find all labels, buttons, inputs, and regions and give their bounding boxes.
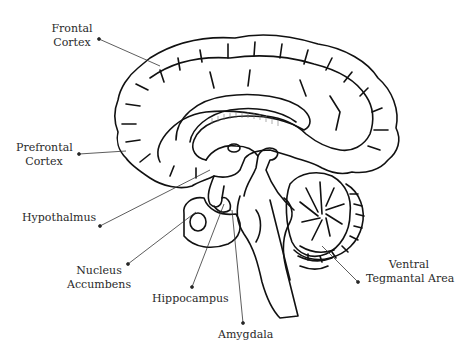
leader-prefrontal-cortex [79,151,126,154]
label-nucleus-accumbens: Nucleus Accumbens [66,264,132,292]
label-amygdala: Amygdala [218,328,282,342]
label-nucleus-accumbens-line1: Nucleus [66,264,132,278]
leader-frontal-cortex [99,39,160,66]
brain-diagram: Frontal Cortex Prefrontal Cortex Hypotha… [0,0,475,361]
label-hippocampus: Hippocampus [152,292,224,306]
leader-amygdala [232,210,243,323]
leader-vta [322,246,358,282]
brainstem [237,196,298,318]
label-amygdala-line1: Amygdala [218,328,282,342]
label-prefrontal-cortex-line1: Prefrontal [16,141,72,155]
label-hypothalamus: Hypothalmus [22,211,94,225]
label-vta-line2: Tegmantal Area [366,272,452,286]
brain-illustration [0,0,475,361]
cerebellum [286,173,350,257]
amygdala-shape [190,213,206,231]
label-nucleus-accumbens-line2: Accumbens [66,278,132,292]
label-frontal-cortex: Frontal Cortex [48,22,96,50]
label-hippocampus-line1: Hippocampus [152,292,224,306]
label-prefrontal-cortex-line2: Cortex [16,155,72,169]
label-frontal-cortex-line1: Frontal [48,22,96,36]
label-vta-line1: Ventral [366,258,452,272]
label-ventral-tegmental-area: Ventral Tegmantal Area [366,258,452,286]
corpus-callosum [176,95,310,160]
label-hypothalamus-line1: Hypothalmus [22,211,94,225]
label-frontal-cortex-line2: Cortex [48,36,96,50]
hypothalamus [208,176,224,207]
label-prefrontal-cortex: Prefrontal Cortex [16,141,72,169]
